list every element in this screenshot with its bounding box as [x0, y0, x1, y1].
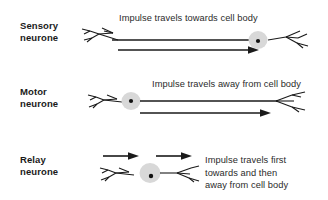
- dendrites-icon: [100, 168, 134, 181]
- impulse-arrow-relay-towards: [103, 152, 139, 160]
- impulse-arrow-sensory: [118, 46, 259, 54]
- nucleus-icon: [256, 39, 260, 43]
- neurone-row-sensory: Sensory neurone Impulse travels towards …: [0, 0, 328, 66]
- axon-terminals-icon: [276, 92, 305, 112]
- dendrites-icon: [88, 95, 122, 108]
- sensory-neurone-art: [0, 0, 328, 68]
- cell-body-icon: [249, 31, 268, 49]
- motor-neurone-art: [0, 66, 328, 134]
- relay-neurone-art: [0, 132, 328, 200]
- cell-body-icon: [140, 163, 161, 183]
- cell-body-icon: [122, 92, 141, 110]
- axon-terminals-icon: [160, 166, 199, 182]
- nucleus-icon: [149, 174, 153, 178]
- impulse-arrow-relay-away: [156, 152, 192, 160]
- neurone-row-relay: Relay neurone Impulse travels first towa…: [0, 132, 328, 200]
- axon-terminals-icon: [268, 31, 308, 48]
- impulse-arrow-motor: [140, 109, 271, 117]
- nucleus-icon: [129, 99, 133, 103]
- neurone-diagram: Sensory neurone Impulse travels towards …: [0, 0, 328, 200]
- neurone-row-motor: Motor neurone Impulse travels away from …: [0, 66, 328, 132]
